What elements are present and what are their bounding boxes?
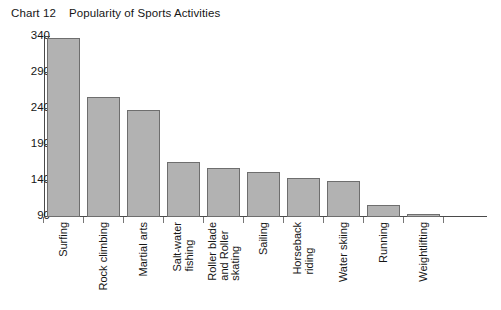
- x-axis-label-line: Surfing: [58, 222, 70, 257]
- x-axis-label: Surfing: [47, 222, 80, 308]
- chart-title-text: Popularity of Sports Activities: [69, 7, 220, 19]
- x-axis-label-text: Salt-waterfishing: [172, 222, 195, 272]
- bar-group[interactable]: [47, 31, 80, 217]
- x-axis-label-line: Martial arts: [138, 222, 150, 276]
- bar[interactable]: [167, 162, 200, 217]
- x-axis-tick-mark: [283, 217, 284, 223]
- x-axis-label-line: riding: [304, 222, 316, 275]
- x-axis-tick-mark: [443, 217, 444, 223]
- x-axis-label-line: and Roller: [218, 222, 230, 281]
- bar-group[interactable]: [247, 31, 280, 217]
- x-axis-label: Water skiing: [327, 222, 360, 308]
- x-axis-label-line: Running: [378, 222, 390, 263]
- chart-title: Chart 12Popularity of Sports Activities: [11, 7, 220, 19]
- x-axis-label: Rock climbing: [87, 222, 120, 308]
- x-axis-label: Running: [367, 222, 400, 308]
- x-axis-tick-mark: [243, 217, 244, 223]
- x-axis-tick-mark: [203, 217, 204, 223]
- bar[interactable]: [327, 181, 360, 217]
- plot-area: [44, 30, 486, 217]
- bar-group[interactable]: [367, 31, 400, 217]
- bar[interactable]: [367, 205, 400, 217]
- bar[interactable]: [287, 178, 320, 217]
- x-axis-label-text: Surfing: [58, 222, 70, 257]
- x-axis-label-line: Rock climbing: [98, 222, 110, 290]
- x-axis-tick-mark: [363, 217, 364, 223]
- x-axis-label-line: fishing: [184, 222, 196, 272]
- bar[interactable]: [247, 172, 280, 217]
- x-axis-tick-mark: [323, 217, 324, 223]
- x-axis-label-text: Rock climbing: [98, 222, 110, 290]
- x-axis-label-line: Sailing: [258, 222, 270, 255]
- bar[interactable]: [47, 38, 80, 217]
- x-axis-tick-mark: [403, 217, 404, 223]
- x-axis-label: Martial arts: [127, 222, 160, 308]
- x-axis-label-text: Horsebackriding: [292, 222, 315, 275]
- x-axis-label: Horsebackriding: [287, 222, 320, 308]
- x-axis-label: Weightlifting: [407, 222, 440, 308]
- x-axis-label-line: Weightlifting: [418, 222, 430, 282]
- bar[interactable]: [87, 97, 120, 217]
- bar-group[interactable]: [127, 31, 160, 217]
- x-axis-tick-mark: [83, 217, 84, 223]
- x-axis-label-line: Roller blade: [206, 222, 218, 281]
- x-axis-tick-mark: [123, 217, 124, 223]
- bar-group[interactable]: [207, 31, 240, 217]
- chart-title-number: Chart 12: [11, 7, 56, 19]
- x-axis-label-line: Horseback: [292, 222, 304, 275]
- x-axis-label-text: Running: [378, 222, 390, 263]
- x-axis-label-text: Sailing: [258, 222, 270, 255]
- bar[interactable]: [407, 214, 440, 217]
- x-axis-label-line: skating: [229, 222, 241, 281]
- x-axis-label-text: Water skiing: [338, 222, 350, 282]
- x-axis-tick-mark: [163, 217, 164, 223]
- chart-figure: Chart 12Popularity of Sports Activities …: [0, 0, 501, 310]
- x-axis-label-line: Water skiing: [338, 222, 350, 282]
- x-axis-label-text: Weightlifting: [418, 222, 430, 282]
- bar-group[interactable]: [327, 31, 360, 217]
- x-axis-label-line: Salt-water: [172, 222, 184, 272]
- x-axis-label: Sailing: [247, 222, 280, 308]
- bar-group[interactable]: [407, 31, 440, 217]
- x-axis-label: Salt-waterfishing: [167, 222, 200, 308]
- bar-group[interactable]: [167, 31, 200, 217]
- bar-group[interactable]: [287, 31, 320, 217]
- x-axis-label-text: Martial arts: [138, 222, 150, 276]
- bar-group[interactable]: [87, 31, 120, 217]
- bar[interactable]: [127, 110, 160, 217]
- x-axis-label: Roller bladeand Rollerskating: [207, 222, 240, 308]
- x-axis-label-text: Roller bladeand Rollerskating: [206, 222, 241, 281]
- x-axis-tick-mark: [43, 217, 44, 223]
- bar[interactable]: [207, 168, 240, 217]
